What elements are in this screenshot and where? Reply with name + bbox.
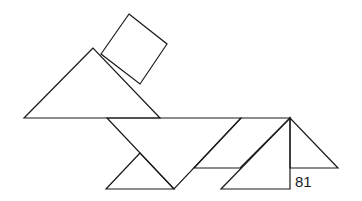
square-piece <box>101 14 167 84</box>
small-triangle-tail-piece <box>290 118 338 168</box>
figure-number-label: 81 <box>295 174 312 189</box>
tangram-figure <box>0 0 362 201</box>
large-triangle-body-piece <box>107 118 241 189</box>
small-triangle-front-leg-piece <box>106 153 174 189</box>
parallelogram-piece <box>194 118 290 168</box>
